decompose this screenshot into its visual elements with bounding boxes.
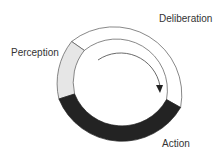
cycle-arrow (98, 53, 160, 86)
perception-segment (57, 42, 84, 100)
deliberation-segment (72, 27, 182, 108)
perception-label: Perception (11, 47, 59, 58)
deliberation-label: Deliberation (159, 13, 212, 24)
action-segment (59, 94, 181, 141)
arrowhead-icon (156, 85, 163, 93)
action-label: Action (162, 138, 190, 149)
